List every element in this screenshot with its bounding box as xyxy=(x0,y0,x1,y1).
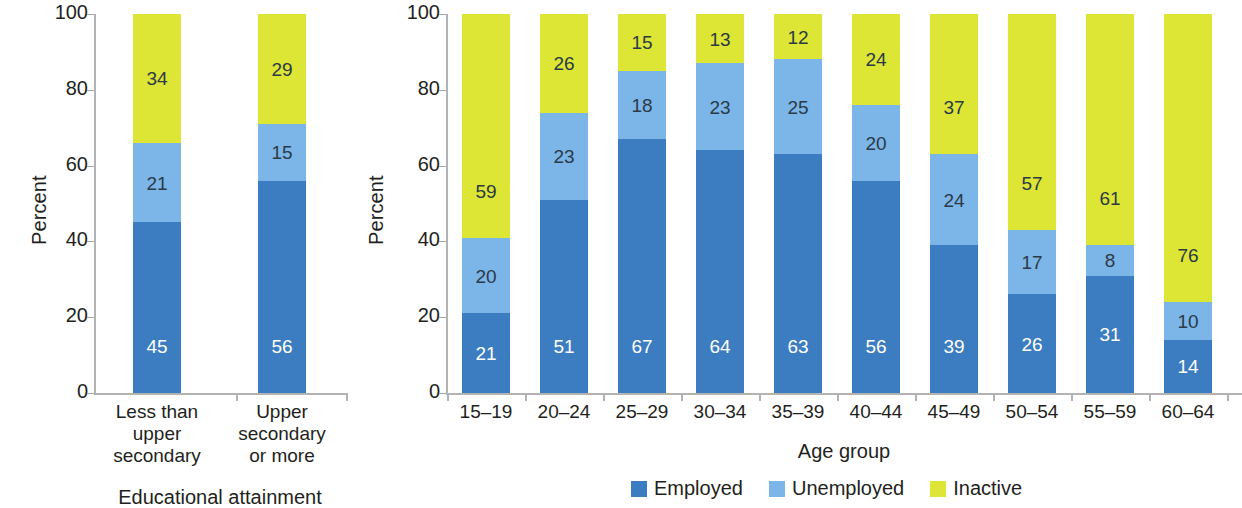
x-category-label: Less than upper secondary xyxy=(87,401,227,467)
stacked-bar[interactable]: 452134 xyxy=(133,14,181,393)
bar-segment-unemployed[interactable]: 21 xyxy=(133,143,181,223)
stacked-bar[interactable]: 31861 xyxy=(1086,14,1134,393)
x-tick-mark xyxy=(837,393,839,401)
bar-segment-unemployed[interactable]: 17 xyxy=(1008,230,1056,294)
bar-segment-inactive[interactable]: 61 xyxy=(1086,14,1134,245)
bar-segment-unemployed[interactable]: 8 xyxy=(1086,245,1134,275)
chart-legend: EmployedUnemployedInactive xyxy=(631,477,1039,500)
bar-segment-inactive[interactable]: 76 xyxy=(1164,14,1212,302)
bar-segment-value: 21 xyxy=(133,174,181,193)
bar-segment-inactive[interactable]: 29 xyxy=(258,14,306,124)
bar-segment-value: 34 xyxy=(133,69,181,88)
x-category-label: 55–59 xyxy=(1065,401,1155,423)
bar-segment-value: 57 xyxy=(1008,174,1056,193)
legend-item-inactive[interactable]: Inactive xyxy=(930,477,1022,500)
bar-segment-employed[interactable]: 67 xyxy=(618,139,666,393)
y-tick-label: 100 xyxy=(28,1,88,24)
stacked-bar[interactable]: 141076 xyxy=(1164,14,1212,393)
y-tick-label: 80 xyxy=(380,77,440,100)
bar-segment-employed[interactable]: 39 xyxy=(930,245,978,393)
stacked-bar[interactable]: 212059 xyxy=(462,14,510,393)
bar-segment-employed[interactable]: 14 xyxy=(1164,340,1212,393)
bar-segment-unemployed[interactable]: 18 xyxy=(618,71,666,139)
bar-segment-value: 64 xyxy=(696,337,744,356)
x-tick-mark xyxy=(759,393,761,401)
bar-segment-inactive[interactable]: 12 xyxy=(774,14,822,59)
bar-segment-inactive[interactable]: 15 xyxy=(618,14,666,71)
y-tick-mark xyxy=(439,14,446,15)
bar-segment-value: 56 xyxy=(852,337,900,356)
bar-segment-unemployed[interactable]: 23 xyxy=(696,63,744,150)
bar-segment-value: 56 xyxy=(258,337,306,356)
y-tick-label: 100 xyxy=(380,1,440,24)
legend-item-employed[interactable]: Employed xyxy=(631,477,743,500)
y-tick-label: 0 xyxy=(28,380,88,403)
stacked-bar[interactable]: 561529 xyxy=(258,14,306,393)
bar-segment-inactive[interactable]: 57 xyxy=(1008,14,1056,230)
y-tick-mark xyxy=(439,166,446,167)
x-tick-mark xyxy=(1149,393,1151,401)
bar-segment-value: 23 xyxy=(540,147,588,166)
bar-segment-value: 63 xyxy=(774,337,822,356)
stacked-bar[interactable]: 562024 xyxy=(852,14,900,393)
bar-segment-employed[interactable]: 64 xyxy=(696,150,744,393)
x-tick-mark xyxy=(915,393,917,401)
bar-segment-employed[interactable]: 26 xyxy=(1008,294,1056,393)
y-tick-mark xyxy=(87,90,94,91)
x-category-label: Upper secondary or more xyxy=(212,401,352,467)
square-swatch-icon xyxy=(930,481,946,497)
bar-segment-value: 24 xyxy=(852,50,900,69)
bar-segment-employed[interactable]: 51 xyxy=(540,200,588,393)
bar-segment-value: 76 xyxy=(1164,246,1212,265)
bar-segment-inactive[interactable]: 26 xyxy=(540,14,588,113)
y-tick-mark xyxy=(87,14,94,15)
bar-segment-value: 20 xyxy=(462,267,510,286)
bar-segment-unemployed[interactable]: 10 xyxy=(1164,302,1212,340)
y-tick-label: 40 xyxy=(380,228,440,251)
bar-segment-inactive[interactable]: 37 xyxy=(930,14,978,154)
x-tick-mark xyxy=(603,393,605,401)
age-group-x-axis-line xyxy=(446,393,1242,395)
bar-segment-unemployed[interactable]: 20 xyxy=(462,238,510,314)
bar-segment-unemployed[interactable]: 24 xyxy=(930,154,978,245)
bar-segment-employed[interactable]: 63 xyxy=(774,154,822,393)
y-tick-label: 20 xyxy=(380,304,440,327)
stacked-bar[interactable]: 642313 xyxy=(696,14,744,393)
bar-segment-employed[interactable]: 45 xyxy=(133,222,181,393)
y-tick-mark xyxy=(87,317,94,318)
education-plot-area: 452134561529 xyxy=(94,14,346,393)
legend-item-unemployed[interactable]: Unemployed xyxy=(769,477,904,500)
bar-segment-inactive[interactable]: 59 xyxy=(462,14,510,238)
bar-segment-inactive[interactable]: 13 xyxy=(696,14,744,63)
stacked-bar[interactable]: 392437 xyxy=(930,14,978,393)
bar-segment-value: 59 xyxy=(462,182,510,201)
x-category-label: 35–39 xyxy=(753,401,843,423)
y-tick-mark xyxy=(87,241,94,242)
bar-segment-employed[interactable]: 56 xyxy=(258,181,306,393)
bar-segment-value: 13 xyxy=(696,30,744,49)
bar-segment-value: 10 xyxy=(1164,312,1212,331)
x-tick-mark xyxy=(681,393,683,401)
stacked-bar[interactable]: 632512 xyxy=(774,14,822,393)
x-tick-mark xyxy=(1071,393,1073,401)
bar-segment-employed[interactable]: 56 xyxy=(852,181,900,393)
bar-segment-employed[interactable]: 21 xyxy=(462,313,510,393)
stacked-bar[interactable]: 671815 xyxy=(618,14,666,393)
stacked-bar[interactable]: 261757 xyxy=(1008,14,1056,393)
education-chart-panel: Percent 020406080100 452134561529 Less t… xyxy=(0,0,400,508)
bar-segment-value: 14 xyxy=(1164,357,1212,376)
bar-segment-inactive[interactable]: 34 xyxy=(133,14,181,143)
bar-segment-unemployed[interactable]: 25 xyxy=(774,59,822,154)
bar-segment-unemployed[interactable]: 15 xyxy=(258,124,306,181)
bar-segment-value: 39 xyxy=(930,337,978,356)
legend-item-label: Inactive xyxy=(953,477,1022,500)
bar-segment-value: 18 xyxy=(618,96,666,115)
bar-segment-value: 26 xyxy=(540,54,588,73)
bar-segment-unemployed[interactable]: 23 xyxy=(540,113,588,200)
bar-segment-unemployed[interactable]: 20 xyxy=(852,105,900,181)
y-tick-label: 60 xyxy=(28,153,88,176)
bar-segment-inactive[interactable]: 24 xyxy=(852,14,900,105)
stacked-bar[interactable]: 512326 xyxy=(540,14,588,393)
age-group-plot-area: 2120595123266718156423136325125620243924… xyxy=(446,14,1242,393)
bar-segment-employed[interactable]: 31 xyxy=(1086,276,1134,393)
